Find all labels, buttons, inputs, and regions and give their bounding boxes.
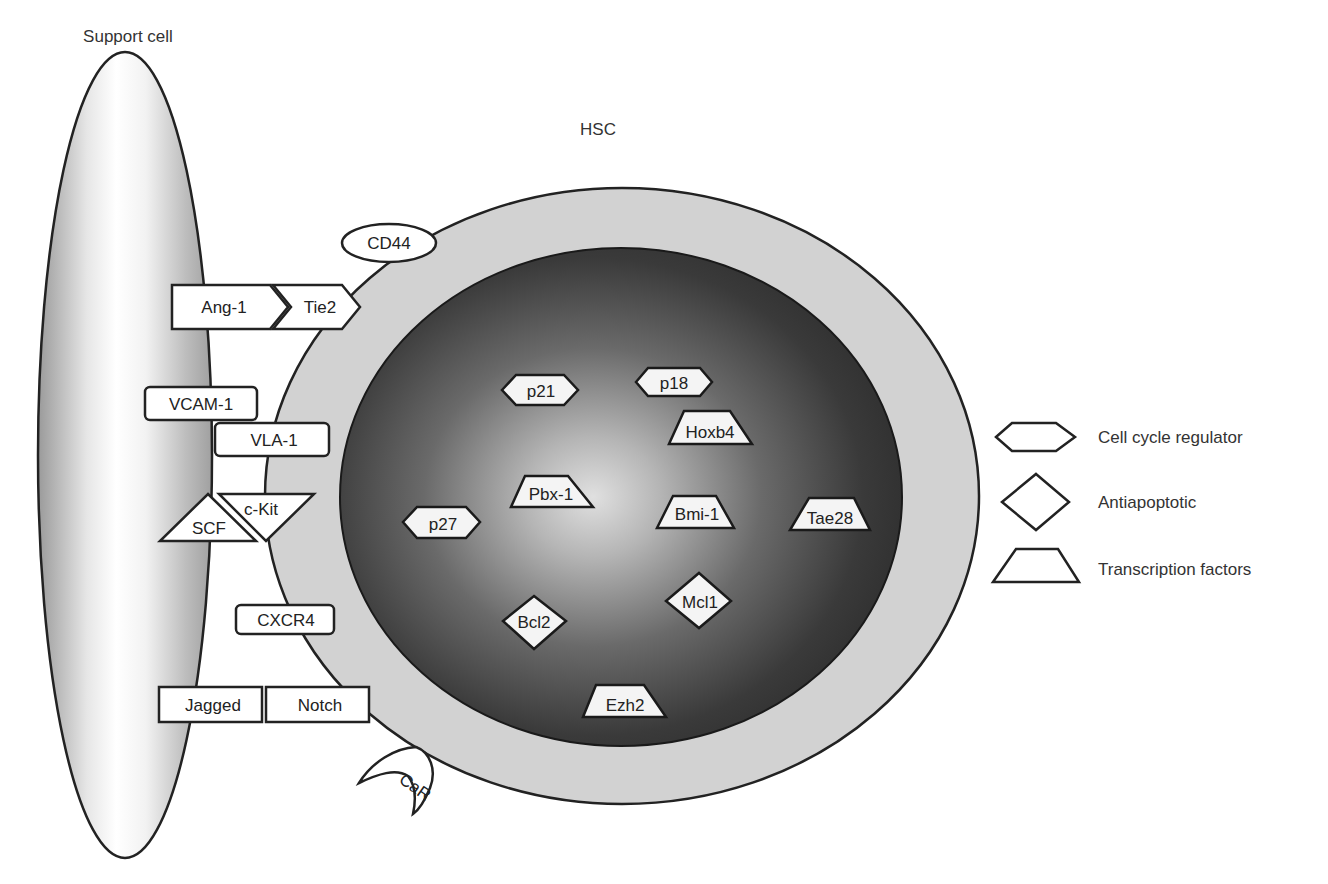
svg-text:Ezh2: Ezh2 xyxy=(606,696,645,715)
svg-text:Hoxb4: Hoxb4 xyxy=(685,423,734,442)
svg-text:Antiapoptotic: Antiapoptotic xyxy=(1098,493,1197,512)
p27-factor: p27 xyxy=(403,507,480,538)
legend-item-antiapoptotic: Antiapoptotic xyxy=(1002,474,1197,530)
svg-text:Bmi-1: Bmi-1 xyxy=(675,505,719,524)
legend-item-transcription-factors: Transcription factors xyxy=(993,549,1251,582)
car-receptor: CaR xyxy=(359,747,434,814)
svg-text:CD44: CD44 xyxy=(367,234,410,253)
svg-text:p27: p27 xyxy=(429,515,457,534)
vla1-receptor: VLA-1 xyxy=(215,423,329,456)
svg-text:CXCR4: CXCR4 xyxy=(257,611,315,630)
notch-receptor: Notch xyxy=(266,687,369,722)
support-cell-title: Support cell xyxy=(83,27,173,46)
ang1-ligand: Ang-1 xyxy=(172,285,288,329)
svg-text:p18: p18 xyxy=(660,374,688,393)
jagged-ligand: Jagged xyxy=(159,687,262,722)
svg-text:p21: p21 xyxy=(527,382,555,401)
svg-text:Jagged: Jagged xyxy=(185,696,241,715)
cxcr4-receptor: CXCR4 xyxy=(236,605,334,634)
svg-text:VCAM-1: VCAM-1 xyxy=(169,395,233,414)
svg-text:Bcl2: Bcl2 xyxy=(517,613,550,632)
hexagon-icon xyxy=(996,423,1075,451)
vcam1-ligand: VCAM-1 xyxy=(145,387,257,420)
hsc-niche-diagram: Support cell HSC CD44 Ang-1 Tie2 VCAM-1 … xyxy=(0,0,1328,884)
svg-text:Tie2: Tie2 xyxy=(304,298,336,317)
svg-text:Tae28: Tae28 xyxy=(807,509,853,528)
trapezoid-icon xyxy=(993,549,1079,582)
hsc-title: HSC xyxy=(580,120,616,139)
svg-text:Notch: Notch xyxy=(298,696,342,715)
support-cell xyxy=(38,52,212,858)
svg-text:Transcription factors: Transcription factors xyxy=(1098,560,1251,579)
legend-item-cell-cycle-regulator: Cell cycle regulator xyxy=(996,423,1243,451)
legend: Cell cycle regulator Antiapoptotic Trans… xyxy=(993,423,1251,582)
p21-factor: p21 xyxy=(502,375,578,405)
svg-text:VLA-1: VLA-1 xyxy=(250,431,297,450)
svg-text:Cell cycle regulator: Cell cycle regulator xyxy=(1098,428,1243,447)
diamond-icon xyxy=(1002,474,1069,530)
p18-factor: p18 xyxy=(636,368,712,396)
svg-text:Pbx-1: Pbx-1 xyxy=(529,485,573,504)
cd44-receptor: CD44 xyxy=(342,224,436,262)
svg-text:c-Kit: c-Kit xyxy=(244,500,278,519)
svg-text:Ang-1: Ang-1 xyxy=(201,298,246,317)
svg-text:SCF: SCF xyxy=(192,519,226,538)
svg-text:Mcl1: Mcl1 xyxy=(682,593,718,612)
